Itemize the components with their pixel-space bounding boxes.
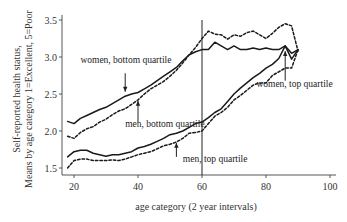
x-tick-label: 40 [133,181,143,192]
annotation-label: men, top quartile [183,154,248,164]
axes: 1.52.02.53.03.520406080100 [45,15,338,193]
annotation-men-bottom-quartile: men, bottom quartile [125,101,204,129]
arrow-head-icon [174,143,178,148]
y-axis-title-line-1: Self-reported health status, [11,45,22,152]
y-axis-title-line-2: Means by age category 1=Excellent, 5=Poo… [23,9,34,188]
annotation-women-top-quartile: women, top quartile [256,51,332,89]
series-layer [68,24,298,168]
annotation-women-bottom-quartile: women, bottom quartile [80,55,171,92]
annotation-men-top-quartile: men, top quartile [174,143,247,164]
x-axis-title: age category (2 year intervals) [135,201,257,213]
y-tick-label: 3.0 [45,52,58,63]
y-tick-label: 3.5 [45,15,58,26]
y-axis-title: Self-reported health status, Means by ag… [11,9,34,188]
annotation-label: men, bottom quartile [125,119,204,129]
annotation-layer: women, bottom quartilemen, bottom quarti… [80,51,332,164]
annotation-label: women, top quartile [256,79,332,89]
arrow-head-icon [123,87,127,92]
x-tick-label: 100 [323,181,338,192]
x-tick-label: 80 [261,181,271,192]
x-tick-label: 60 [197,181,207,192]
y-tick-label: 1.5 [45,163,58,174]
arrow-head-icon [283,51,287,56]
x-tick-label: 20 [69,181,79,192]
annotation-label: women, bottom quartile [80,55,171,65]
line-chart: 1.52.02.53.03.520406080100 women, bottom… [0,0,347,222]
arrow-head-icon [136,101,140,106]
y-tick-label: 2.5 [45,89,58,100]
y-tick-label: 2.0 [45,126,58,137]
